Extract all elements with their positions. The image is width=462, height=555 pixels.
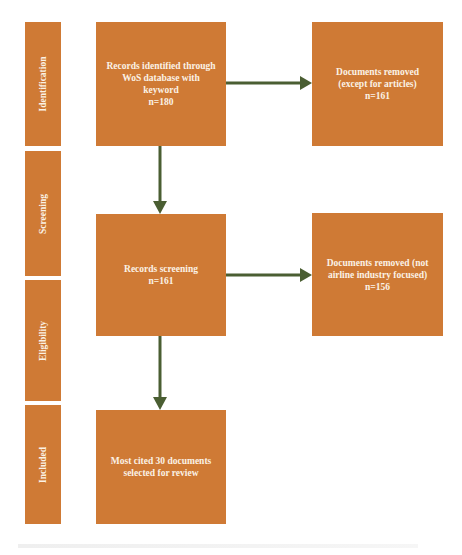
flow-arrows xyxy=(0,0,462,555)
arrow-down-icon xyxy=(153,146,167,214)
arrow-right-icon xyxy=(226,76,312,90)
arrow-down-icon xyxy=(153,336,167,410)
arrow-right-icon xyxy=(226,268,312,282)
caption-blur xyxy=(18,544,418,548)
